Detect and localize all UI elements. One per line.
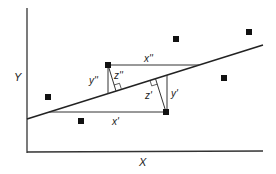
data-point <box>221 75 227 81</box>
x-axis-label: X <box>138 156 147 168</box>
regression-diagram: Y X x'' y'' z'' x' y' z' <box>0 0 276 174</box>
z-double-prime-label: z'' <box>113 70 124 81</box>
data-points <box>45 29 252 124</box>
data-point <box>246 29 252 35</box>
y-axis-label: Y <box>14 71 22 83</box>
x-axis <box>27 151 263 152</box>
data-point <box>45 94 51 100</box>
z-prime-segment <box>156 79 167 112</box>
y-double-prime-label: y'' <box>88 75 99 86</box>
data-point <box>163 109 169 115</box>
data-point <box>105 62 111 68</box>
y-prime-label: y' <box>170 88 179 99</box>
data-point <box>173 36 179 42</box>
x-double-prime-label: x'' <box>143 53 154 64</box>
z-prime-label: z' <box>144 90 153 101</box>
x-prime-label: x' <box>111 116 120 127</box>
data-point <box>78 118 84 124</box>
